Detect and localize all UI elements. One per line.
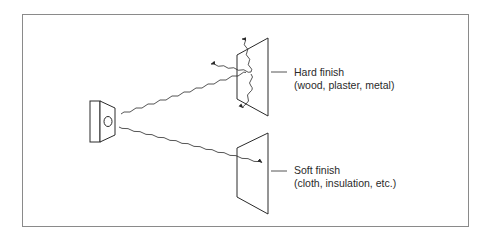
reflection-wave-upper-left bbox=[211, 64, 251, 73]
hard-finish-title: Hard finish bbox=[294, 66, 394, 79]
sound-wave-to-hard bbox=[121, 72, 246, 114]
soft-finish-examples: (cloth, insulation, etc.) bbox=[294, 177, 396, 190]
soft-finish-panel bbox=[237, 133, 268, 214]
soft-finish-title: Soft finish bbox=[294, 164, 396, 177]
soft-finish-label: Soft finish (cloth, insulation, etc.) bbox=[294, 164, 396, 190]
reflection-wave-up bbox=[242, 39, 252, 72]
hard-finish-label: Hard finish (wood, plaster, metal) bbox=[294, 66, 394, 92]
sound-wave-to-soft bbox=[119, 127, 262, 163]
speaker-icon bbox=[90, 101, 115, 142]
sound-reflection-diagram bbox=[0, 0, 492, 240]
hard-finish-examples: (wood, plaster, metal) bbox=[294, 79, 394, 92]
